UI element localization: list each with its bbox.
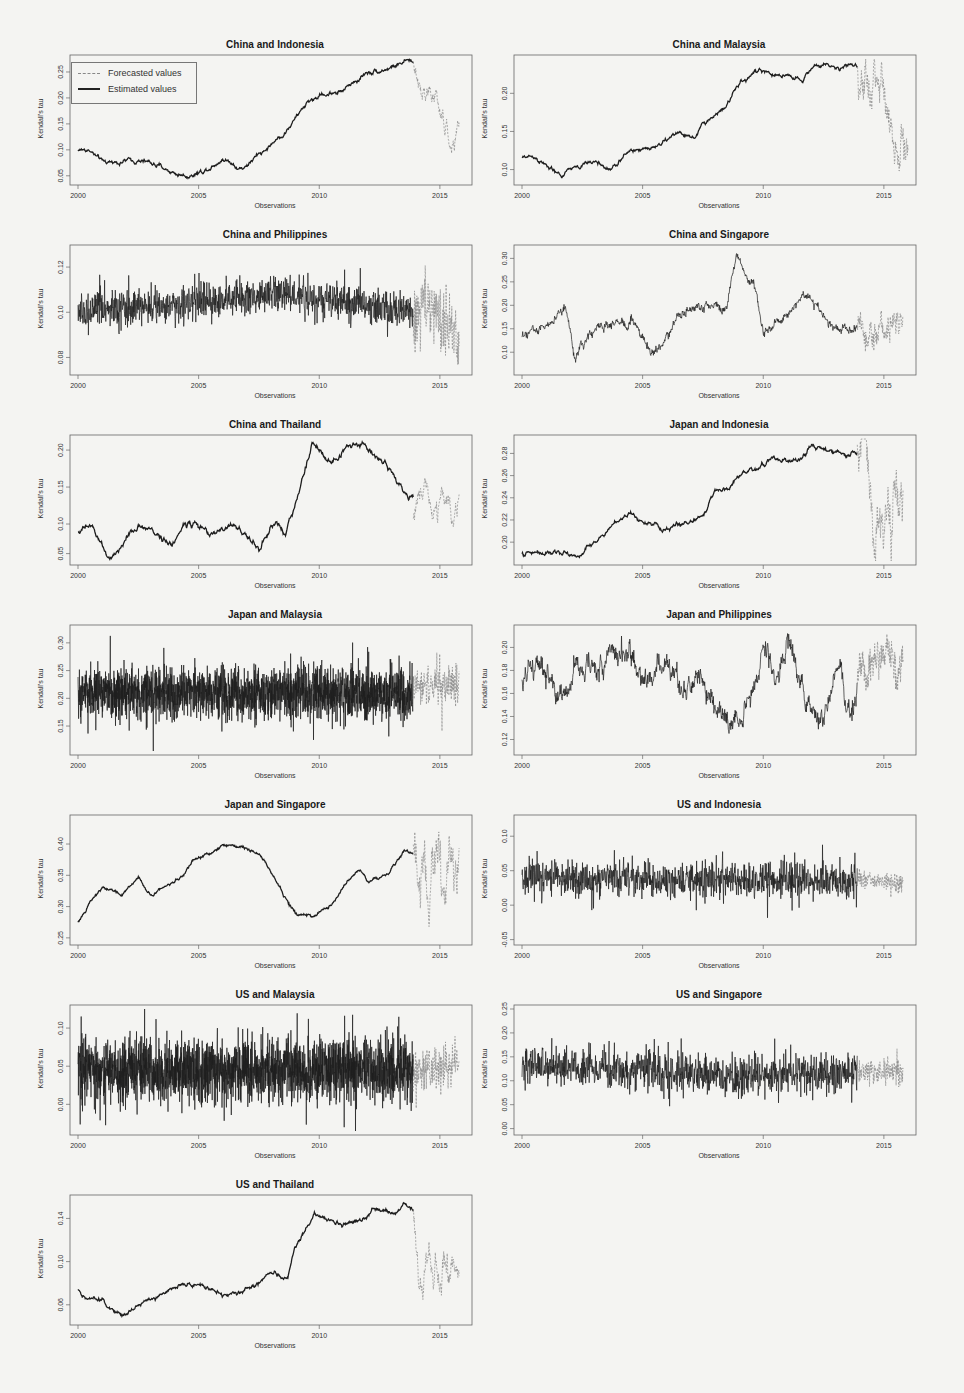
y-tick-label: 0.10 [57, 143, 64, 157]
x-axis-label: Observations [70, 962, 480, 969]
y-tick-label: 0.20 [501, 1026, 508, 1040]
y-axis-label: Kendall's tau [37, 1039, 44, 1099]
plot-area: 0.150.200.250.302000200520102015 [40, 605, 484, 795]
x-tick-label: 2015 [432, 952, 448, 959]
chart-panel: Japan and Singapore0.250.300.350.4020002… [40, 795, 484, 985]
y-tick-label: 0.24 [501, 491, 508, 505]
x-tick-label: 2000 [514, 382, 530, 389]
x-tick-label: 2000 [70, 1142, 86, 1149]
forecasted-values-line [857, 439, 903, 561]
plot-area: 0.000.050.102000200520102015 [40, 985, 484, 1175]
y-axis-label: Kendall's tau [481, 849, 488, 909]
forecasted-values-line [413, 1209, 459, 1300]
y-tick-label: 0.10 [501, 345, 508, 359]
y-tick-label: 0.08 [57, 351, 64, 365]
chart-panel: US and Indonesia-0.050.000.050.102000200… [484, 795, 928, 985]
x-axis-label: Observations [514, 772, 924, 779]
y-tick-label: 0.20 [501, 298, 508, 312]
x-tick-label: 2015 [432, 382, 448, 389]
x-axis-label: Observations [514, 202, 924, 209]
y-tick-label: -0.05 [501, 932, 508, 948]
y-tick-label: 0.15 [57, 719, 64, 733]
plot-area: -0.050.000.050.102000200520102015 [484, 795, 928, 985]
x-tick-label: 2005 [635, 1142, 651, 1149]
x-axis-label: Observations [514, 1152, 924, 1159]
y-axis-label: Kendall's tau [481, 279, 488, 339]
y-tick-label: 0.10 [57, 1255, 64, 1269]
y-tick-label: 0.12 [57, 260, 64, 274]
y-axis-label: Kendall's tau [37, 469, 44, 529]
chart-panel: China and Indonesia0.050.100.150.200.252… [40, 35, 484, 225]
x-tick-label: 2015 [876, 192, 892, 199]
y-tick-label: 0.20 [501, 86, 508, 100]
plot-area: 0.050.100.150.202000200520102015 [40, 415, 484, 605]
x-tick-label: 2000 [70, 762, 86, 769]
y-tick-label: 0.15 [501, 322, 508, 336]
x-tick-label: 2015 [876, 572, 892, 579]
y-axis-label: Kendall's tau [37, 279, 44, 339]
y-tick-label: 0.14 [501, 710, 508, 724]
chart-panel: China and Thailand0.050.100.150.20200020… [40, 415, 484, 605]
y-tick-label: 0.05 [57, 1059, 64, 1073]
y-tick-label: 0.05 [57, 169, 64, 183]
y-tick-label: 0.10 [57, 305, 64, 319]
x-tick-label: 2005 [191, 762, 207, 769]
y-tick-label: 0.20 [501, 640, 508, 654]
x-tick-label: 2005 [635, 572, 651, 579]
y-tick-label: 0.16 [501, 687, 508, 701]
y-tick-label: 0.05 [57, 547, 64, 561]
chart-panel: China and Philippines0.080.100.122000200… [40, 225, 484, 415]
legend-item-estimated: Estimated values [78, 83, 177, 95]
forecasted-values-line [857, 634, 903, 691]
estimated-values-line [78, 442, 413, 559]
legend-label: Estimated values [108, 84, 177, 94]
x-tick-label: 2005 [191, 572, 207, 579]
forecasted-values-line [857, 869, 903, 898]
y-tick-label: 0.10 [57, 517, 64, 531]
chart-panel: China and Malaysia0.100.150.202000200520… [484, 35, 928, 225]
x-tick-label: 2000 [70, 192, 86, 199]
x-tick-label: 2015 [876, 952, 892, 959]
x-tick-label: 2000 [514, 192, 530, 199]
estimated-values-line [78, 1009, 413, 1131]
x-axis-label: Observations [70, 1342, 480, 1349]
y-tick-label: 0.28 [501, 446, 508, 460]
y-axis-label: Kendall's tau [481, 89, 488, 149]
forecasted-values-line [857, 310, 903, 351]
y-tick-label: 0.25 [57, 664, 64, 678]
x-tick-label: 2010 [755, 382, 771, 389]
x-tick-label: 2015 [876, 1142, 892, 1149]
legend-item-forecasted: Forecasted values [78, 67, 182, 79]
x-tick-label: 2005 [191, 1142, 207, 1149]
y-tick-label: 0.35 [57, 868, 64, 882]
x-tick-label: 2010 [311, 1332, 327, 1339]
chart-panel: China and Singapore0.100.150.200.250.302… [484, 225, 928, 415]
y-tick-label: 0.25 [57, 931, 64, 945]
x-tick-label: 2010 [755, 952, 771, 959]
x-tick-label: 2015 [432, 1332, 448, 1339]
x-tick-label: 2010 [755, 572, 771, 579]
x-tick-label: 2005 [191, 1332, 207, 1339]
y-tick-label: 0.05 [501, 1098, 508, 1112]
chart-legend: Forecasted valuesEstimated values [71, 62, 197, 104]
x-tick-label: 2000 [514, 952, 530, 959]
forecasted-values-line [413, 653, 459, 731]
x-tick-label: 2000 [70, 382, 86, 389]
y-axis-label: Kendall's tau [481, 1039, 488, 1099]
x-tick-label: 2015 [432, 192, 448, 199]
x-tick-label: 2005 [635, 762, 651, 769]
y-tick-label: 0.20 [57, 691, 64, 705]
estimated-values-line [522, 634, 857, 734]
y-tick-label: 0.15 [501, 125, 508, 139]
x-tick-label: 2005 [635, 952, 651, 959]
plot-area: 0.000.050.100.150.200.252000200520102015 [484, 985, 928, 1175]
forecasted-values-line [857, 59, 908, 171]
x-tick-label: 2000 [514, 1142, 530, 1149]
x-axis-label: Observations [70, 392, 480, 399]
y-tick-label: 0.05 [501, 864, 508, 878]
x-tick-label: 2010 [311, 572, 327, 579]
y-tick-label: 0.00 [501, 898, 508, 912]
plot-area: 0.060.100.142000200520102015 [40, 1175, 484, 1365]
y-axis-label: Kendall's tau [481, 659, 488, 719]
y-tick-label: 0.06 [57, 1298, 64, 1312]
